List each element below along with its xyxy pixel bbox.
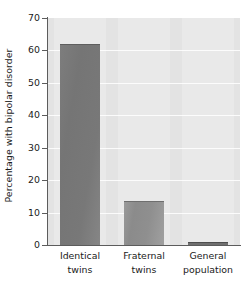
bar-chart: Percentage with bipolar disorder 0102030… (0, 0, 249, 286)
x-axis-label: Identicaltwins (48, 249, 112, 276)
x-axis-label-line2: twins (48, 263, 112, 277)
y-tick-label: 60 (28, 46, 40, 55)
bar (60, 44, 100, 245)
x-axis-category-labels: IdenticaltwinsFraternaltwinsGeneralpopul… (48, 249, 240, 286)
background-band (182, 18, 234, 245)
plot-area (48, 18, 240, 245)
x-axis-label-line1: General (176, 249, 240, 263)
bar (124, 201, 164, 245)
x-axis-label-line2: twins (112, 263, 176, 277)
x-axis-label-line1: Fraternal (112, 249, 176, 263)
y-tick-label: 50 (28, 78, 40, 87)
y-tick-mark (42, 245, 48, 246)
x-axis-label-line2: population (176, 263, 240, 277)
y-tick-label: 70 (28, 13, 40, 22)
x-axis-label-line1: Identical (48, 249, 112, 263)
y-tick-label: 30 (28, 143, 40, 152)
x-axis-line (47, 245, 241, 246)
y-tick-label: 10 (28, 208, 40, 217)
y-tick-label: 0 (34, 240, 40, 249)
y-axis-title: Percentage with bipolar disorder (0, 0, 16, 250)
y-axis-title-text: Percentage with bipolar disorder (3, 48, 14, 202)
x-axis-label: Generalpopulation (176, 249, 240, 276)
y-axis-tick-labels: 010203040506070 (16, 0, 44, 286)
bar (188, 242, 228, 245)
y-tick-label: 20 (28, 175, 40, 184)
x-axis-label: Fraternaltwins (112, 249, 176, 276)
y-tick-label: 40 (28, 111, 40, 120)
